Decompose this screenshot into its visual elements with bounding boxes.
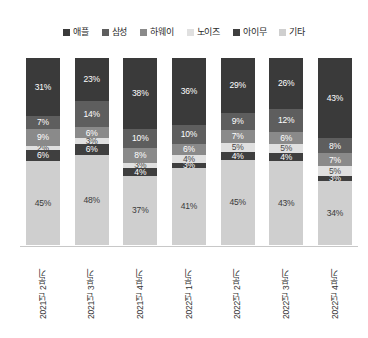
bar-segment[interactable]: 7% (26, 116, 60, 129)
bar-segment-value-label: 26% (278, 79, 294, 88)
bar-segment-value-label: 7% (37, 118, 49, 127)
bar-segment[interactable]: 4% (123, 168, 157, 175)
bar-segment[interactable]: 8% (318, 138, 352, 153)
legend-item-label: 애플 (73, 28, 89, 37)
bar-segment[interactable]: 4% (221, 152, 255, 160)
bar-segment-value-label: 4% (134, 168, 146, 175)
bar-segment-value-label: 4% (280, 153, 292, 161)
x-axis-tick-label: 2021년 4분기 (136, 249, 145, 319)
bar-segment-value-label: 8% (134, 151, 146, 160)
bar-segment[interactable]: 43% (318, 58, 352, 138)
bar-segment[interactable]: 34% (318, 181, 352, 245)
bar-segment[interactable]: 45% (26, 161, 60, 245)
bar-segment-value-label: 6% (86, 145, 98, 154)
bar-segment-value-label: 23% (83, 75, 99, 84)
bar-segment-value-label: 6% (37, 151, 49, 160)
legend-swatch-icon (279, 29, 286, 36)
bar-segment[interactable]: 5% (269, 144, 303, 154)
x-axis-tick-group: 2022년 2분기 (221, 249, 255, 319)
x-axis-tick-label: 2022년 2분기 (233, 249, 242, 319)
bar-column[interactable]: 36%10%6%4%3%41% (172, 58, 206, 245)
bar-segment[interactable]: 48% (75, 155, 109, 245)
bar-segment[interactable]: 4% (269, 153, 303, 161)
bar-segment-value-label: 6% (280, 134, 292, 143)
bar-column[interactable]: 31%7%9%2%6%45% (26, 58, 60, 245)
bar-segment-value-label: 7% (329, 156, 341, 165)
bar-segment-value-label: 8% (329, 142, 341, 151)
bar-segment[interactable]: 6% (172, 144, 206, 155)
bar-segment-value-label: 5% (329, 167, 341, 176)
bar-segment-value-label: 45% (229, 198, 245, 207)
bar-segment[interactable]: 6% (26, 150, 60, 161)
bar-segment-value-label: 5% (280, 144, 292, 153)
x-axis-line (20, 246, 358, 247)
bar-segment[interactable]: 38% (123, 58, 157, 129)
legend-item-label: 기타 (289, 28, 305, 37)
bar-segment-value-label: 10% (181, 130, 197, 139)
bar-segment[interactable]: 45% (221, 160, 255, 245)
bar-segment[interactable]: 5% (318, 166, 352, 175)
legend-item-label: 하웨이 (150, 28, 173, 37)
bar-segment[interactable]: 8% (123, 148, 157, 163)
bar-segment[interactable]: 7% (318, 153, 352, 166)
bar-segment[interactable]: 10% (123, 129, 157, 148)
x-axis-tick-group: 2022년 4분기 (318, 249, 352, 319)
bar-segment[interactable]: 7% (221, 130, 255, 143)
bar-segment-value-label: 14% (83, 110, 99, 119)
bar-segment-value-label: 43% (278, 199, 294, 208)
bar-column[interactable]: 29%9%7%5%4%45% (221, 58, 255, 245)
bar-segment[interactable]: 26% (269, 58, 303, 109)
bar-segment[interactable]: 4% (172, 155, 206, 162)
bar-segment[interactable]: 6% (75, 144, 109, 155)
chart-legend: 애플삼성하웨이노이즈아이무기타 (0, 28, 368, 37)
bar-segment[interactable]: 23% (75, 58, 109, 101)
bar-segment[interactable]: 36% (172, 58, 206, 125)
bar-segment-value-label: 41% (181, 202, 197, 211)
bar-column[interactable]: 23%14%6%3%6%48% (75, 58, 109, 245)
bar-segment-value-label: 43% (327, 94, 343, 103)
legend-item[interactable]: 기타 (279, 28, 305, 37)
legend-item[interactable]: 하웨이 (140, 28, 173, 37)
bar-segment-value-label: 34% (327, 209, 343, 218)
plot-area: 31%7%9%2%6%45%23%14%6%3%6%48%38%10%8%3%4… (26, 58, 352, 245)
bar-segment[interactable]: 41% (172, 168, 206, 245)
legend-item[interactable]: 삼성 (102, 28, 128, 37)
bar-segment[interactable]: 6% (75, 127, 109, 138)
bar-segment[interactable]: 10% (172, 125, 206, 144)
bar-segment-value-label: 7% (232, 132, 244, 141)
bar-column[interactable]: 43%8%7%5%3%34% (318, 58, 352, 245)
legend-item[interactable]: 애플 (63, 28, 89, 37)
bar-segment-value-label: 12% (278, 116, 294, 125)
bar-segment[interactable]: 9% (26, 129, 60, 146)
x-axis-tick-label: 2022년 3분기 (282, 249, 291, 319)
bar-column[interactable]: 38%10%8%3%4%37% (123, 58, 157, 245)
bar-segment[interactable]: 12% (269, 109, 303, 132)
bar-segment-value-label: 29% (229, 81, 245, 90)
bar-segment[interactable]: 14% (75, 101, 109, 127)
legend-swatch-icon (102, 29, 109, 36)
legend-item[interactable]: 아이무 (233, 28, 266, 37)
x-axis-tick-group: 2021년 3분기 (75, 249, 109, 319)
x-axis-tick-group: 2022년 3분기 (269, 249, 303, 319)
bar-segment-value-label: 10% (132, 134, 148, 143)
bar-segment[interactable]: 5% (221, 143, 255, 152)
bar-column[interactable]: 26%12%6%5%4%43% (269, 58, 303, 245)
bar-segment-value-label: 5% (232, 143, 244, 152)
bar-segment[interactable]: 31% (26, 58, 60, 116)
x-axis-tick-label: 2022년 4분기 (331, 249, 340, 319)
bar-segment[interactable]: 9% (221, 113, 255, 130)
bar-segment[interactable]: 6% (269, 132, 303, 144)
x-axis-tick-group: 2021년 4분기 (123, 249, 157, 319)
bar-segment[interactable]: 37% (123, 176, 157, 245)
x-axis-tick-label: 2022년 1분기 (185, 249, 194, 319)
legend-item[interactable]: 노이즈 (187, 28, 220, 37)
legend-swatch-icon (187, 29, 194, 36)
bar-segment-value-label: 38% (132, 89, 148, 98)
bar-segment-value-label: 6% (86, 129, 98, 138)
bar-segment[interactable]: 29% (221, 58, 255, 113)
bar-segment-value-label: 31% (35, 83, 51, 92)
bar-segment[interactable]: 43% (269, 161, 303, 245)
legend-swatch-icon (233, 29, 240, 36)
bar-segment-value-label: 9% (37, 133, 49, 142)
bar-segment-value-label: 4% (232, 152, 244, 160)
